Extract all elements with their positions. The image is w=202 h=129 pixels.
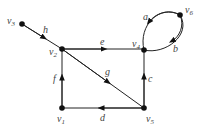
edge-label-h: h	[43, 24, 48, 35]
edge-label-g: g	[105, 66, 110, 77]
node-label-v5: v5	[146, 113, 154, 126]
node-v5: v5	[141, 105, 154, 126]
edge-g: g	[62, 49, 144, 108]
edge-label-c: c	[148, 73, 153, 84]
node-v6: v6	[177, 4, 193, 18]
node-label-v1: v1	[57, 113, 65, 126]
node-label-v3: v3	[7, 15, 15, 28]
edge-label-f: f	[53, 73, 57, 84]
edge-label-e: e	[100, 36, 105, 47]
node-label-v6: v6	[185, 4, 193, 17]
edge-label-d: d	[100, 112, 106, 123]
edge-label-a: a	[143, 11, 148, 22]
node-label-v2: v2	[49, 46, 57, 59]
node-v1: v1	[57, 105, 65, 126]
directed-graph: h e g f d c a b	[0, 0, 202, 129]
edge-c: c	[144, 50, 153, 108]
edge-h: h	[22, 24, 62, 49]
node-v3: v3	[7, 15, 25, 28]
node-v4: v4	[132, 38, 147, 53]
edge-d: d	[62, 108, 144, 123]
edge-label-b: b	[173, 43, 178, 54]
